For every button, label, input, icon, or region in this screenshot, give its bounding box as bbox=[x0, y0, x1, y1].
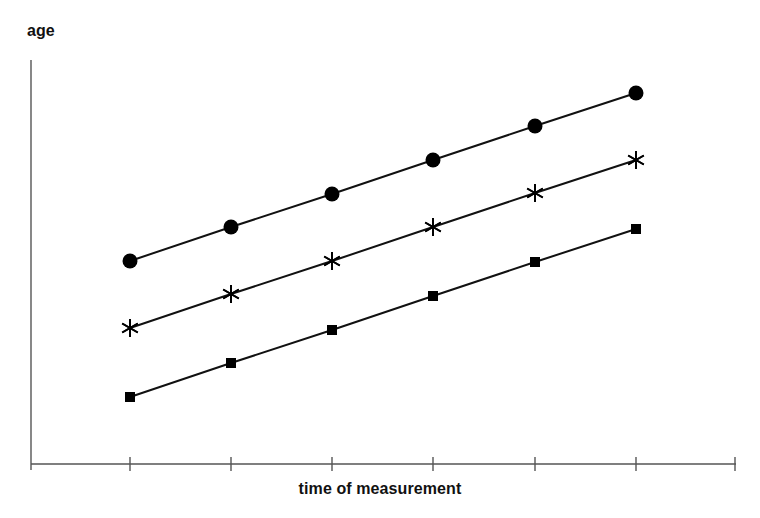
marker-six-pointed-asterisk-1-1 bbox=[223, 285, 239, 303]
marker-six-pointed-asterisk-1-3 bbox=[425, 218, 441, 236]
series-line-cohort-1-youngest bbox=[130, 229, 636, 397]
series-line-cohort-3-oldest bbox=[130, 93, 636, 261]
marker-filled-square-2-2 bbox=[327, 325, 337, 335]
x-axis-title: time of measurement bbox=[0, 480, 760, 498]
marker-filled-square-2-3 bbox=[428, 291, 438, 301]
series-line-cohort-2-middle bbox=[130, 160, 636, 328]
marker-filled-circle-0-2 bbox=[325, 187, 340, 202]
marker-filled-circle-0-4 bbox=[528, 119, 543, 134]
marker-filled-square-2-4 bbox=[530, 257, 540, 267]
marker-filled-circle-0-1 bbox=[224, 220, 239, 235]
marker-six-pointed-asterisk-1-4 bbox=[527, 184, 543, 202]
marker-filled-circle-0-0 bbox=[123, 254, 138, 269]
marker-filled-square-2-0 bbox=[125, 392, 135, 402]
chart-container: age time of measurement bbox=[0, 0, 760, 518]
marker-filled-circle-0-5 bbox=[629, 86, 644, 101]
marker-six-pointed-asterisk-1-0 bbox=[122, 319, 138, 337]
marker-filled-circle-0-3 bbox=[426, 153, 441, 168]
series-cohort-3-oldest bbox=[123, 86, 644, 269]
marker-six-pointed-asterisk-1-5 bbox=[628, 151, 644, 169]
series-cohort-1-youngest bbox=[125, 224, 641, 402]
plot-area bbox=[0, 0, 760, 518]
series-cohort-2-middle bbox=[122, 151, 644, 337]
marker-filled-square-2-5 bbox=[631, 224, 641, 234]
marker-six-pointed-asterisk-1-2 bbox=[324, 252, 340, 270]
marker-filled-square-2-1 bbox=[226, 358, 236, 368]
